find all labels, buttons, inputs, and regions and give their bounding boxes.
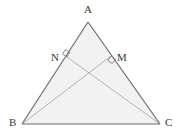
vertex-label-b: B <box>9 117 16 128</box>
point-label-n: N <box>51 52 59 63</box>
vertex-label-a: A <box>84 4 92 15</box>
vertex-label-c: C <box>165 117 172 128</box>
point-label-m: M <box>117 52 127 63</box>
geometry-figure: A B C N M <box>0 0 184 140</box>
geometry-canvas <box>0 0 184 140</box>
